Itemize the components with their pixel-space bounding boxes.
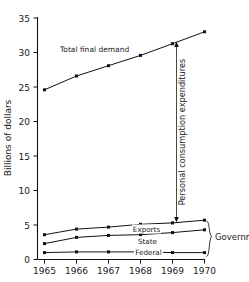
y-axis-title: Billions of dollars [3,99,13,176]
y-tick-label-30: 30 [19,48,31,58]
chart-figure: 35 30 25 20 15 10 5 0 1965 1966 1967 196… [0,0,249,282]
y-tick-label-5: 5 [24,221,30,231]
svg-text:Exports: Exports [133,225,161,234]
y-tick-label-15: 15 [19,152,30,162]
inline-label-federal: Federal [134,248,163,257]
annotation-government: Government [215,232,249,242]
x-tick-marks [45,260,205,264]
annotation-total-final-demand: Total final demand [59,45,129,54]
svg-text:Federal: Federal [135,248,162,257]
inline-label-state: State [136,237,159,246]
svg-text:State: State [138,237,158,246]
x-tick-label-1965: 1965 [33,266,56,276]
x-tick-label-1970: 1970 [193,266,216,276]
y-tick-label-25: 25 [19,83,30,93]
government-brace [207,221,213,257]
y-tick-label-20: 20 [19,117,31,127]
y-tick-label-35: 35 [19,14,30,24]
series-exports [43,219,206,237]
y-tick-marks [34,18,38,260]
annotation-personal-consumption-expenditures: Personal consumption expenditures [177,59,187,206]
y-tick-label-10: 10 [19,186,31,196]
x-tick-label-1966: 1966 [65,266,88,276]
x-tick-label-1967: 1967 [97,266,120,276]
x-tick-label-1968: 1968 [129,266,152,276]
x-tick-label-1969: 1969 [161,266,184,276]
y-tick-label-0: 0 [24,255,30,265]
chart-plot-area: 35 30 25 20 15 10 5 0 1965 1966 1967 196… [0,0,249,282]
inline-label-exports: Exports [132,225,161,234]
series-federal [43,250,206,254]
